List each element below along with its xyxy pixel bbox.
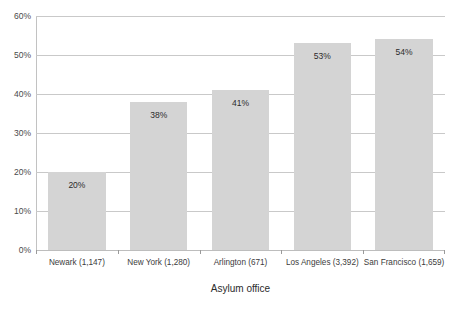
x-axis-category-label: New York (1,280) xyxy=(118,258,200,267)
x-axis-category-label: Los Angeles (3,392) xyxy=(281,258,363,267)
bar-value-label: 54% xyxy=(375,47,432,57)
y-axis-tick-label: 30% xyxy=(0,128,31,138)
bar-chart: 0%10%20%30%40%50%60% 20%38%41%53%54% New… xyxy=(0,0,454,310)
x-axis-tick xyxy=(281,250,282,254)
bar: 20% xyxy=(48,172,105,250)
y-axis-tick-label: 10% xyxy=(0,206,31,216)
bars-layer: 20%38%41%53%54% xyxy=(36,16,445,250)
x-axis-tick xyxy=(118,250,119,254)
x-axis-tick xyxy=(200,250,201,254)
x-axis-tick xyxy=(36,250,37,254)
bar: 54% xyxy=(375,39,432,250)
bar-value-label: 20% xyxy=(48,180,105,190)
x-axis-ticks xyxy=(36,250,445,255)
y-axis-tick-label: 50% xyxy=(0,50,31,60)
y-axis-tick-label: 0% xyxy=(0,245,31,255)
y-axis-tick-label: 20% xyxy=(0,167,31,177)
x-axis-tick xyxy=(363,250,364,254)
y-axis-tick-label: 60% xyxy=(0,11,31,21)
x-axis-category-labels: Newark (1,147)New York (1,280)Arlington … xyxy=(36,258,445,272)
bar: 53% xyxy=(294,43,351,250)
bar-value-label: 38% xyxy=(130,110,187,120)
x-axis-title: Asylum office xyxy=(36,283,445,294)
x-axis-tick xyxy=(444,250,445,254)
bar-value-label: 53% xyxy=(294,51,351,61)
plot-area: 20%38%41%53%54% xyxy=(36,16,445,250)
bar-value-label: 41% xyxy=(212,98,269,108)
bar: 38% xyxy=(130,102,187,250)
y-axis-tick-label: 40% xyxy=(0,89,31,99)
x-axis-category-label: Arlington (671) xyxy=(200,258,282,267)
x-axis-category-label: San Francisco (1,659) xyxy=(363,258,445,267)
bar: 41% xyxy=(212,90,269,250)
x-axis-category-label: Newark (1,147) xyxy=(36,258,118,267)
